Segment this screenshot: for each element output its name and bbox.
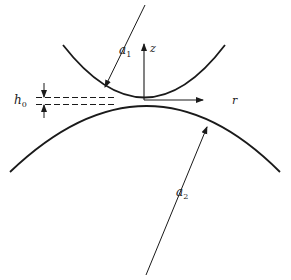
radius-a2-arrow	[146, 127, 207, 275]
label-r-axis: r	[232, 94, 238, 107]
label-h0: h0	[14, 93, 27, 109]
lower-sphere-arc	[10, 106, 280, 172]
diagram-canvas: a1 a2 h0 z r	[0, 0, 291, 280]
label-a2: a2	[176, 185, 188, 201]
label-z-axis: z	[149, 42, 156, 55]
label-a1: a1	[119, 43, 131, 59]
